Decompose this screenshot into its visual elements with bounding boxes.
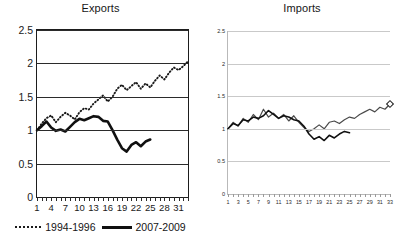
legend-label-2007-2009: 2007-2009 [136, 221, 186, 233]
x-axis-tick [37, 197, 38, 201]
x-axis-tick-label: 25 [145, 202, 156, 213]
x-axis-tick-label: 16 [102, 202, 113, 213]
x-axis-tick [79, 197, 80, 201]
x-axis-tick [98, 197, 99, 201]
series-line-2007-2009 [228, 111, 350, 141]
imports-panel: Imports 00.511.522.513579111315171921232… [201, 0, 403, 246]
x-axis-tick [42, 197, 43, 201]
y-axis-tick-label: 2.5 [217, 28, 225, 34]
legend-item-2007-2009: 2007-2009 [102, 221, 186, 233]
solid-line-swatch-icon [102, 226, 132, 229]
x-axis-tick [263, 194, 264, 197]
x-axis-tick-label: 1 [227, 199, 230, 206]
x-axis-tick [309, 194, 310, 197]
y-axis-tick-label: 2 [222, 61, 225, 67]
x-axis-labels: 1471013161922252831 [37, 202, 188, 216]
x-axis-tick-label: 13 [286, 199, 292, 206]
y-axis-tick-label: 2 [27, 58, 33, 68]
x-axis-tick-label: 27 [357, 199, 363, 206]
x-axis-tick [108, 197, 109, 201]
x-axis-tick [279, 194, 280, 197]
gridline [37, 164, 188, 165]
x-axis-tick [160, 197, 161, 201]
imports-series-layer [228, 31, 390, 194]
x-axis-tick [258, 194, 259, 197]
x-axis-tick [269, 194, 270, 197]
gridline [37, 63, 188, 64]
x-axis-tick [155, 197, 156, 201]
two-panel-line-chart-figure: Exports 00.511.522.51471013161922252831 … [0, 0, 403, 246]
x-axis-tick [385, 194, 386, 197]
x-axis-tick [380, 194, 381, 197]
x-axis-tick [70, 197, 71, 201]
x-axis-tick-label: 28 [159, 202, 170, 213]
gridline [228, 129, 390, 130]
x-axis-tick [117, 197, 118, 201]
x-axis-tick [304, 194, 305, 197]
x-axis-tick-label: 7 [63, 202, 68, 213]
x-axis-tick [355, 194, 356, 197]
y-axis-tick-label: 2.5 [18, 25, 33, 35]
x-axis-tick [183, 197, 184, 201]
x-axis-tick [56, 197, 57, 201]
x-axis-tick-label: 19 [117, 202, 128, 213]
x-axis-tick-label: 4 [49, 202, 54, 213]
x-axis-tick [344, 194, 345, 197]
x-axis-tick [136, 197, 137, 201]
x-axis-tick [314, 194, 315, 197]
x-axis-tick [360, 194, 361, 197]
y-axis-tick-label: 1 [27, 125, 33, 135]
dotted-line-swatch-icon [15, 226, 41, 228]
exports-chart-title: Exports [0, 1, 201, 15]
x-axis-tick [65, 197, 66, 201]
x-axis-tick-label: 22 [131, 202, 142, 213]
x-axis-tick [89, 197, 90, 201]
x-axis-tick [274, 194, 275, 197]
y-axis-tick-label: 0 [27, 192, 33, 202]
x-axis-tick-label: 17 [306, 199, 312, 206]
x-axis-tick [131, 197, 132, 201]
x-axis-tick [253, 194, 254, 197]
x-axis-tick [294, 194, 295, 197]
x-axis-tick [339, 194, 340, 197]
x-axis-tick-label: 33 [387, 199, 393, 206]
x-axis-tick-label: 23 [336, 199, 342, 206]
x-axis-tick [113, 197, 114, 201]
y-axis-tick-label: 1.5 [217, 93, 225, 99]
x-axis-tick [243, 194, 244, 197]
x-axis-tick [284, 194, 285, 197]
x-axis-tick [289, 194, 290, 197]
gridline [37, 97, 188, 98]
x-axis-tick [150, 197, 151, 201]
imports-chart-title: Imports [201, 1, 403, 15]
x-axis-tick [46, 197, 47, 201]
legend-item-1994-1996: 1994-1996 [15, 221, 95, 233]
x-axis-tick [179, 197, 180, 201]
x-axis-tick [390, 194, 391, 197]
x-axis-tick [324, 194, 325, 197]
x-axis-tick-label: 31 [173, 202, 184, 213]
x-axis-tick [122, 197, 123, 201]
x-axis-tick-label: 7 [257, 199, 260, 206]
x-axis-tick [299, 194, 300, 197]
x-axis-labels: 13579111315171921232527293133 [228, 199, 390, 213]
exports-series-layer [37, 30, 188, 197]
exports-legend: 1994-1996 2007-2009 [0, 219, 201, 235]
x-axis-tick-label: 3 [237, 199, 240, 206]
imports-plot-area: 00.511.522.51357911131517192123252729313… [227, 31, 390, 195]
x-axis-tick-label: 13 [88, 202, 99, 213]
y-axis-tick-label: 0.5 [18, 159, 33, 169]
gridline [37, 130, 188, 131]
x-axis-tick [319, 194, 320, 197]
x-axis-tick-label: 25 [347, 199, 353, 206]
gridline [228, 31, 390, 32]
x-axis-tick [329, 194, 330, 197]
x-axis-tick [75, 197, 76, 201]
gridline [228, 96, 390, 97]
x-axis-tick-label: 29 [367, 199, 373, 206]
series-line-1994-1996 [37, 61, 188, 130]
exports-panel: Exports 00.511.522.51471013161922252831 … [0, 0, 201, 246]
x-axis-tick [51, 197, 52, 201]
x-axis-tick-label: 19 [316, 199, 322, 206]
x-axis-tick-label: 1 [34, 202, 39, 213]
